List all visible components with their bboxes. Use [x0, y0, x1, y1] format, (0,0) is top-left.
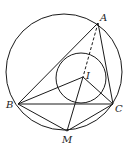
label-b: B	[5, 99, 13, 110]
label-i: I	[85, 70, 91, 81]
geometry-diagram: A B C M I	[0, 0, 128, 145]
segment-bi	[18, 77, 83, 104]
segment-bm	[18, 104, 67, 131]
circles	[6, 14, 122, 130]
segment-ab	[18, 23, 98, 104]
segment-ac	[98, 23, 113, 104]
label-c: C	[115, 103, 123, 114]
label-a: A	[99, 12, 107, 23]
label-m: M	[61, 134, 73, 145]
segments	[18, 23, 113, 131]
circumcircle	[6, 14, 122, 130]
